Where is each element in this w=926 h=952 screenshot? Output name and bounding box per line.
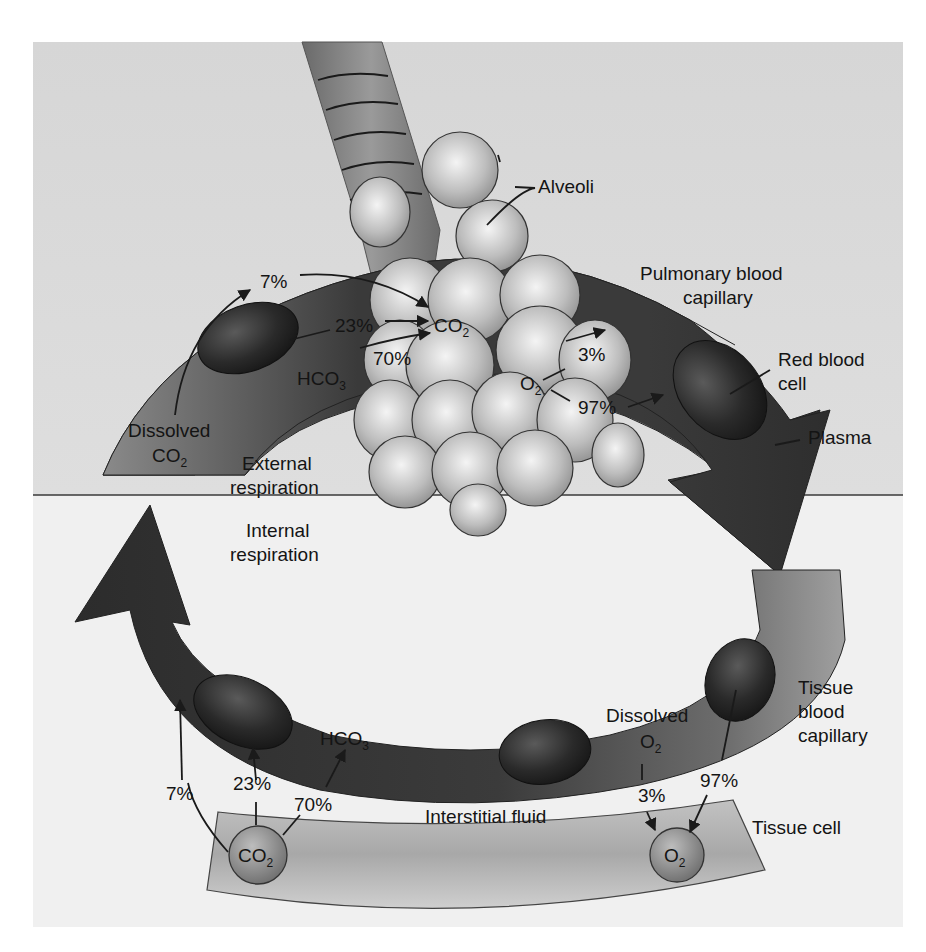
pct-co2-dissolved-internal: 7% [166,783,194,804]
red-blood-cell-label-2: cell [778,373,807,394]
pulmonary-capillary-label-1: Pulmonary blood [640,263,783,284]
tissue-capillary-label-1: Tissue [798,677,853,698]
gas-exchange-diagram: Alveoli Pulmonary blood capillary Red bl… [0,0,926,952]
pct-co2-rbc-internal: 23% [233,773,271,794]
dissolved-o2-label: Dissolved [606,705,688,726]
pct-co2-rbc-external: 23% [335,315,373,336]
plasma-label: Plasma [808,427,872,448]
alveoli-label: Alveoli [538,176,594,197]
external-respiration-label-2: respiration [230,477,319,498]
pct-co2-hco3-internal: 70% [294,794,332,815]
tissue-cell-label: Tissue cell [752,817,841,838]
pct-o2-rbc-internal: 97% [700,770,738,791]
internal-respiration-label-1: Internal [246,520,309,541]
pulmonary-capillary-label-2: capillary [683,287,753,308]
internal-respiration-label-2: respiration [230,544,319,565]
pct-co2-hco3-external: 70% [373,348,411,369]
pct-o2-dissolved-internal: 3% [638,785,666,806]
tissue-capillary-label-2: blood [798,701,845,722]
pct-o2-dissolved-external: 3% [578,344,606,365]
pct-co2-dissolved-external: 7% [260,271,288,292]
tissue-capillary-label-3: capillary [798,725,868,746]
dissolved-co2-label: Dissolved [128,420,210,441]
interstitial-fluid-label: Interstitial fluid [425,806,546,827]
external-respiration-label-1: External [242,453,312,474]
pct-o2-rbc-external: 97% [578,397,616,418]
red-blood-cell-label-1: Red blood [778,349,865,370]
